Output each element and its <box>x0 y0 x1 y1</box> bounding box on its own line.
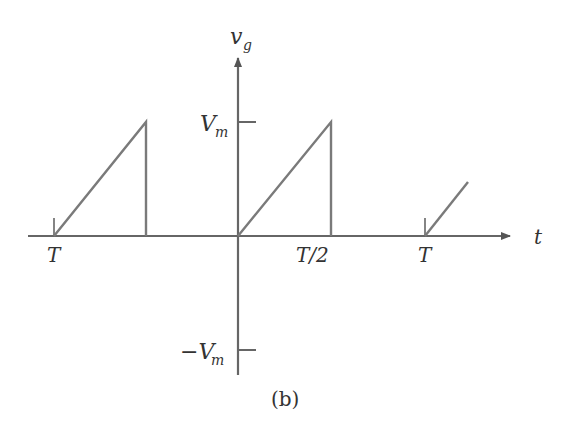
figure-caption: (b) <box>271 387 299 411</box>
neg-vm-label-subscript: m <box>211 352 224 368</box>
right-t-label: T <box>418 243 433 267</box>
x-axis-label: t <box>534 225 543 249</box>
sawtooth-ramp-1 <box>54 122 146 236</box>
sawtooth-ramp-2 <box>238 122 331 236</box>
left-t-label: T <box>47 243 62 267</box>
sawtooth-diagram: v g t V m −V m T T/2 T (b) <box>0 0 568 435</box>
vm-label-subscript: m <box>215 124 228 140</box>
y-axis-label: v <box>230 24 243 49</box>
sawtooth-ramp-3 <box>425 182 468 236</box>
y-axis-label-subscript: g <box>243 37 252 53</box>
half-t-label: T/2 <box>296 243 329 267</box>
